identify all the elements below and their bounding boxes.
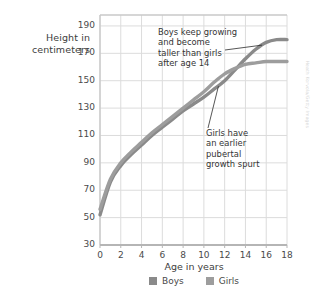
legend-item-boys: Boys: [149, 276, 184, 286]
x-tick-label: 4: [134, 250, 150, 260]
y-tick-label: 70: [73, 184, 95, 194]
x-tick-label: 6: [154, 250, 170, 260]
y-tick-label: 50: [73, 212, 95, 222]
legend-item-girls: Girls: [206, 276, 239, 286]
y-tick-label: 130: [73, 102, 95, 112]
x-tick-label: 2: [113, 250, 129, 260]
y-tick-label: 170: [73, 47, 95, 57]
x-tick-label: 12: [217, 250, 233, 260]
growth-chart-figure: Height in centimeters 305070901101301501…: [0, 0, 311, 294]
x-tick-label: 16: [258, 250, 274, 260]
y-tick-label: 90: [73, 157, 95, 167]
x-tick-label: 8: [175, 250, 191, 260]
x-tick-label: 10: [196, 250, 212, 260]
legend-label-boys: Boys: [162, 276, 184, 286]
chart-legend: Boys Girls: [100, 276, 288, 286]
annotation-girls-note: Girls have an earlier pubertal growth sp…: [206, 128, 282, 170]
annotation-boys-note: Boys keep growing and become taller than…: [158, 27, 240, 69]
y-tick-label: 30: [73, 239, 95, 249]
x-axis-title: Age in years: [100, 261, 288, 272]
legend-swatch-girls: [206, 277, 214, 285]
legend-swatch-boys: [149, 277, 157, 285]
image-credit: Heath Korvola/Getty Images: [305, 61, 310, 128]
legend-label-girls: Girls: [219, 276, 239, 286]
y-tick-label: 110: [73, 129, 95, 139]
y-tick-label: 190: [73, 20, 95, 30]
x-tick-label: 14: [237, 250, 253, 260]
y-tick-label: 150: [73, 75, 95, 85]
x-tick-label: 18: [279, 250, 295, 260]
x-tick-label: 0: [92, 250, 108, 260]
